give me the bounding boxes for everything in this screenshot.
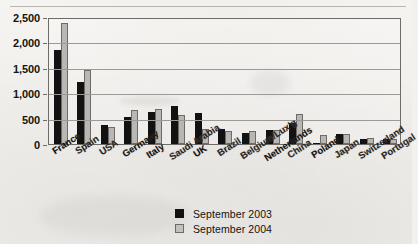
bar-group xyxy=(73,17,97,144)
gridline xyxy=(49,69,400,70)
legend-item-label: September 2004 xyxy=(193,223,272,235)
bar-group xyxy=(237,17,261,144)
plot-area xyxy=(48,18,401,145)
gridline xyxy=(49,43,400,44)
legend-item: September 2003 xyxy=(175,206,272,221)
bar xyxy=(84,70,91,144)
y-axis-tick-mark xyxy=(43,69,47,70)
chart-legend: September 2003 September 2004 xyxy=(175,206,272,236)
y-axis-tick-label: 1,500 xyxy=(13,63,40,75)
bar xyxy=(54,50,61,144)
gridline xyxy=(49,94,400,95)
bar-group xyxy=(96,17,120,144)
bar xyxy=(360,139,367,144)
bar-group xyxy=(331,17,355,144)
legend-item-label: September 2003 xyxy=(193,208,272,220)
y-axis: 05001,0001,5002,0002,500 xyxy=(0,0,46,160)
y-axis-tick-label: 500 xyxy=(22,114,40,126)
y-axis-tick-label: 2,500 xyxy=(13,12,40,24)
y-axis-tick-mark xyxy=(43,94,47,95)
bar xyxy=(61,23,68,144)
bar-group xyxy=(308,17,332,144)
bar-group xyxy=(355,17,379,144)
y-axis-tick-mark xyxy=(43,145,47,146)
black-square-icon xyxy=(175,209,184,218)
y-axis-tick-label: 1,000 xyxy=(13,88,40,100)
bar xyxy=(242,133,249,144)
y-axis-tick-label: 2,000 xyxy=(13,37,40,49)
x-axis-category-labels: FranceSpainUSAGermanyItalySaudi ArabiaUK… xyxy=(0,147,412,207)
y-axis-tick-mark xyxy=(43,43,47,44)
y-axis-tick-mark xyxy=(43,18,47,19)
bar-group xyxy=(49,17,73,144)
bar-groups xyxy=(49,19,400,144)
bar xyxy=(124,117,131,144)
bar xyxy=(171,106,178,144)
gray-square-icon xyxy=(175,224,184,233)
bar-group xyxy=(167,17,191,144)
y-axis-tick-mark xyxy=(43,120,47,121)
bar-group xyxy=(143,17,167,144)
legend-item: September 2004 xyxy=(175,221,272,236)
bar-group xyxy=(120,17,144,144)
gridline xyxy=(49,120,400,121)
